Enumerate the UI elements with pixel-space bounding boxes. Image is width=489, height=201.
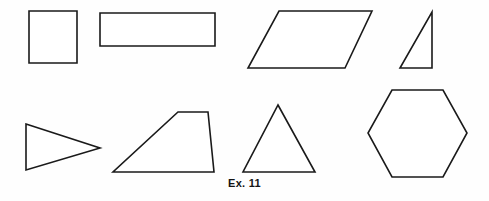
shape-trapezoid (113, 112, 214, 172)
figure-caption: Ex. 11 (0, 177, 489, 189)
geometry-figure: Ex. 11 (0, 0, 489, 201)
shape-equilateral-triangle (243, 105, 315, 172)
shape-rectangle (100, 13, 215, 46)
shape-hexagon (368, 90, 467, 177)
shape-triangle-pointing-right (26, 124, 100, 170)
shape-right-triangle (400, 12, 432, 68)
shape-canvas (0, 0, 489, 201)
shape-parallelogram (248, 11, 372, 68)
shape-square (29, 11, 77, 63)
